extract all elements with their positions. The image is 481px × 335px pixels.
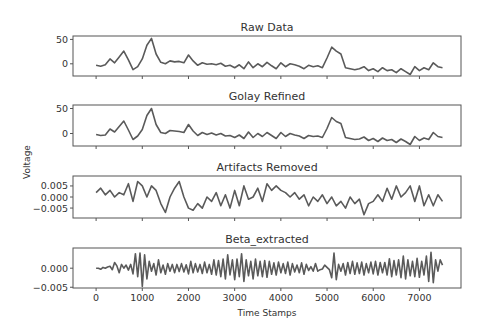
subplot-title: Raw Data xyxy=(241,21,294,34)
y-tick-label: −0.005 xyxy=(33,282,68,293)
y-tick-label: 0 xyxy=(62,58,68,69)
y-tick-label: 50 xyxy=(56,103,68,114)
subplot-2: Golay Refined050 xyxy=(56,90,461,149)
y-tick-label: 0.005 xyxy=(41,180,68,191)
x-axis-label: Time Stamps xyxy=(237,308,297,318)
data-line xyxy=(96,182,442,215)
x-tick-label: 2000 xyxy=(176,292,200,303)
x-tick-label: 7000 xyxy=(407,292,431,303)
y-tick-label: −0.005 xyxy=(33,203,68,214)
x-tick-label: 5000 xyxy=(315,292,339,303)
y-tick-label: 50 xyxy=(56,34,68,45)
x-tick-label: 1000 xyxy=(130,292,154,303)
subplot-1: Raw Data050 xyxy=(56,21,461,79)
subplot-title: Beta_extracted xyxy=(225,233,309,246)
data-line xyxy=(96,252,442,286)
y-tick-label: 0.000 xyxy=(41,192,68,203)
y-axis-label: Voltage xyxy=(22,145,32,179)
x-tick-label: 3000 xyxy=(223,292,247,303)
subplot-3: Artifacts Removed0.0050.000−0.005 xyxy=(33,161,461,221)
x-tick-label: 0 xyxy=(93,292,99,303)
x-tick-label: 6000 xyxy=(361,292,385,303)
y-tick-label: 0.000 xyxy=(41,263,68,274)
data-line xyxy=(96,38,442,74)
figure: Raw Data050Golay Refined050Artifacts Rem… xyxy=(0,0,481,335)
y-tick-label: 0 xyxy=(62,128,68,139)
subplot-title: Artifacts Removed xyxy=(216,161,317,174)
subplot-4: Beta_extracted0.000−0.005010002000300040… xyxy=(33,233,461,303)
x-tick-label: 4000 xyxy=(269,292,293,303)
data-line xyxy=(96,109,442,145)
subplot-title: Golay Refined xyxy=(229,90,306,103)
